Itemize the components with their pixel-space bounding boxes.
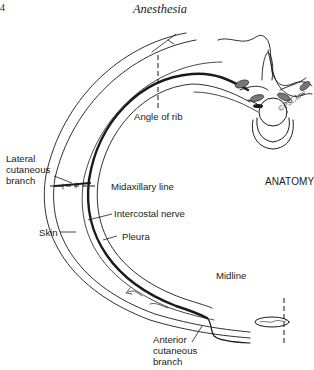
anterior-cutaneous-branch-curve	[207, 318, 250, 343]
label-midaxillary-line: Midaxillary line	[111, 181, 174, 192]
nerve-root-ganglion	[253, 104, 263, 108]
section-tag-anatomy: ANATOMY	[265, 176, 314, 187]
label-lateral-line3: branch	[6, 175, 66, 186]
facet-left-lower	[249, 93, 264, 102]
rib-inner-line	[194, 92, 258, 112]
label-intercostal-nerve: Intercostal nerve	[114, 208, 185, 219]
label-midline: Midline	[216, 270, 246, 281]
label-anterior-cutaneous-branch: Anterior cutaneous branch	[153, 334, 213, 367]
label-lateral-line2: cutaneous	[6, 164, 66, 175]
label-pleura: Pleura	[122, 231, 150, 242]
label-skin: Skin	[39, 227, 58, 238]
label-anterior-line3: branch	[153, 356, 213, 367]
label-anterior-line2: cutaneous	[153, 345, 213, 356]
label-lateral-cutaneous-branch: Lateral cutaneous branch	[6, 153, 66, 186]
label-angle-of-rib: Angle of rib	[134, 111, 183, 122]
label-anterior-line1: Anterior	[153, 334, 213, 345]
vertebra-outline	[218, 35, 312, 86]
label-lateral-line1: Lateral	[6, 153, 66, 164]
pleura-leader	[103, 236, 117, 240]
